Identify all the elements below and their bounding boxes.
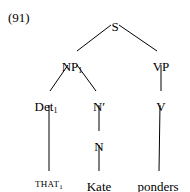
example-number: (91) xyxy=(8,11,30,24)
terminal-kate-label: Kate xyxy=(87,179,112,192)
terminal-that-label: THAT xyxy=(35,179,59,189)
tree-branch-layer xyxy=(0,0,190,192)
node-vp-label: VP xyxy=(153,59,170,74)
syntax-tree-figure: (91) S NP1 VP Det1 N′ V N THAT1 Kate pon… xyxy=(0,0,190,192)
branch-v-to-ponders xyxy=(159,105,160,171)
node-vp: VP xyxy=(153,60,170,73)
node-n: N xyxy=(94,140,103,153)
node-det-subscript: 1 xyxy=(53,106,57,115)
node-np-label: NP xyxy=(62,59,79,74)
node-np: NP1 xyxy=(62,60,83,73)
node-det: Det1 xyxy=(35,100,58,113)
terminal-that: THAT1 xyxy=(35,180,63,189)
node-v-label: V xyxy=(156,99,165,114)
node-n-bar-label: N′ xyxy=(93,99,105,114)
node-v: V xyxy=(156,100,165,113)
node-n-label: N xyxy=(94,139,103,154)
node-n-bar: N′ xyxy=(93,100,105,113)
terminal-ponders: ponders xyxy=(137,180,178,192)
node-np-subscript: 1 xyxy=(78,66,82,75)
terminal-that-subscript: 1 xyxy=(59,183,63,191)
node-det-label: Det xyxy=(35,99,54,114)
branch-s-to-vp xyxy=(119,25,157,51)
node-s-label: S xyxy=(111,19,118,34)
terminal-kate: Kate xyxy=(87,180,112,192)
terminal-ponders-label: ponders xyxy=(137,179,178,192)
branch-s-to-np xyxy=(77,25,111,51)
node-s: S xyxy=(111,20,118,33)
